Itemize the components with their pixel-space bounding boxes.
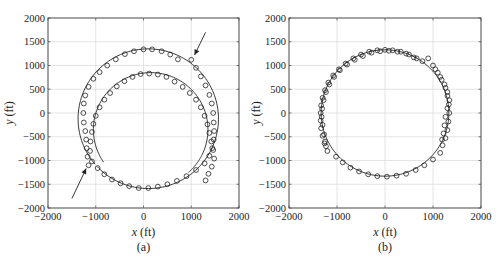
- x-tick-label: 1000: [181, 211, 202, 222]
- y-tick-label: −1500: [259, 179, 286, 190]
- y-tick-label: 1000: [265, 60, 286, 71]
- y-tick-label: −1000: [18, 155, 45, 166]
- y-tick-label: 500: [29, 84, 45, 95]
- y-tick-label: 0: [40, 108, 45, 119]
- x-tick-label: 2000: [229, 211, 250, 222]
- data-marker: [420, 59, 425, 64]
- x-tick-labels-a: −2000−1000010002000: [35, 211, 250, 222]
- y-tick-label: 1500: [265, 36, 286, 47]
- data-marker: [438, 75, 443, 80]
- data-marker: [324, 144, 329, 149]
- data-marker: [83, 129, 88, 134]
- panel-a: 2000150010005000−500−1000−1500−2000 −200…: [2, 13, 250, 255]
- data-marker: [198, 74, 203, 79]
- data-marker: [443, 114, 448, 119]
- data-marker: [426, 56, 431, 61]
- data-marker: [207, 93, 212, 98]
- y-tick-label: 2000: [265, 13, 286, 24]
- data-marker: [172, 79, 177, 84]
- data-marker: [113, 57, 118, 62]
- x-tick-label: 0: [141, 211, 146, 222]
- data-marker: [422, 163, 427, 168]
- data-marker: [108, 91, 113, 96]
- x-tick-label: 1000: [423, 211, 444, 222]
- data-marker: [88, 149, 93, 154]
- data-marker: [194, 97, 199, 102]
- y-tick-labels-a: 2000150010005000−500−1000−1500−2000: [18, 13, 45, 214]
- y-tick-labels-b: 2000150010005000−500−1000−1500−2000: [259, 13, 286, 214]
- grid-a: [48, 18, 239, 208]
- data-marker: [404, 171, 409, 176]
- x-tick-label: 2000: [471, 211, 492, 222]
- panel-b: 2000150010005000−500−1000−1500−2000 −200…: [249, 13, 492, 255]
- inner-arc-tail: [188, 154, 202, 172]
- data-marker: [320, 106, 325, 111]
- y-tick-label: 1000: [24, 60, 45, 71]
- data-marker: [209, 164, 214, 169]
- x-tick-label: −1000: [324, 211, 351, 222]
- y-axis-label-b: y (ft): [249, 101, 263, 126]
- y-tick-label: 500: [270, 84, 286, 95]
- data-marker: [212, 129, 217, 134]
- y-tick-label: 1500: [24, 36, 45, 47]
- data-marker: [122, 79, 127, 84]
- data-marker: [206, 171, 211, 176]
- data-marker: [102, 97, 107, 102]
- y-tick-label: 0: [281, 108, 286, 119]
- figure: 2000150010005000−500−1000−1500−2000 −200…: [0, 0, 504, 264]
- data-marker: [81, 101, 86, 106]
- data-marker: [86, 84, 91, 89]
- data-marker: [83, 93, 88, 98]
- data-marker: [97, 70, 102, 75]
- data-marker: [203, 83, 208, 88]
- y-tick-label: −500: [23, 131, 45, 142]
- x-tick-labels-b: −2000−1000010002000: [276, 211, 492, 222]
- data-marker: [132, 49, 137, 54]
- data-marker: [440, 143, 445, 148]
- data-marker: [147, 71, 152, 76]
- y-axis-label-a: y (ft): [2, 101, 16, 126]
- data-marker: [345, 62, 350, 67]
- estimated-markers-a: [81, 47, 217, 191]
- data-marker: [203, 178, 208, 183]
- data-marker: [439, 77, 444, 82]
- x-axis-label-a: x (ft): [131, 225, 156, 239]
- caption-a: (a): [137, 240, 150, 254]
- y-tick-label: −1500: [18, 179, 45, 190]
- data-marker: [202, 161, 207, 166]
- x-tick-label: −1000: [82, 211, 109, 222]
- data-marker: [211, 120, 216, 125]
- y-tick-label: −1000: [259, 155, 286, 166]
- data-marker: [81, 120, 86, 125]
- data-marker: [159, 49, 164, 54]
- data-marker: [325, 149, 330, 154]
- data-marker: [442, 123, 447, 128]
- inner-arc: [93, 73, 208, 163]
- data-marker: [438, 151, 443, 156]
- x-tick-label: −2000: [35, 211, 62, 222]
- data-marker: [334, 154, 339, 159]
- x-axis-label-b: x (ft): [372, 225, 397, 239]
- x-tick-label: −2000: [276, 211, 303, 222]
- data-marker: [114, 84, 119, 89]
- x-tick-label: 0: [382, 211, 387, 222]
- data-marker: [180, 84, 185, 89]
- data-marker: [88, 139, 93, 144]
- data-marker: [433, 67, 438, 72]
- data-marker: [209, 101, 214, 106]
- data-marker: [442, 82, 447, 87]
- y-tick-label: 2000: [24, 13, 45, 24]
- data-marker: [91, 76, 96, 81]
- caption-b: (b): [378, 240, 392, 254]
- data-marker: [168, 52, 173, 57]
- data-marker: [175, 57, 180, 62]
- y-tick-label: −500: [264, 131, 286, 142]
- grid-b: [289, 18, 481, 208]
- data-marker: [198, 105, 203, 110]
